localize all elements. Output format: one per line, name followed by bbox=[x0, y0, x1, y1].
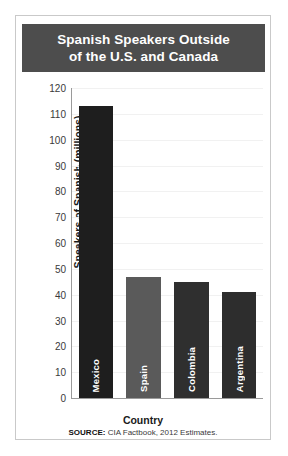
y-axis-tick-label: 20 bbox=[55, 341, 66, 352]
bar-colombia[interactable]: Colombia bbox=[174, 282, 208, 398]
bar-spain[interactable]: Spain bbox=[126, 277, 160, 398]
bar-label: Colombia bbox=[186, 347, 197, 392]
y-axis-tick-label: 120 bbox=[49, 83, 66, 94]
source-text: CIA Factbook, 2012 Estimates. bbox=[105, 428, 217, 437]
gridline bbox=[72, 88, 263, 89]
y-axis-tick-label: 50 bbox=[55, 263, 66, 274]
bar-label: Mexico bbox=[90, 359, 101, 392]
bar-label: Argentina bbox=[234, 346, 245, 392]
bar-argentina[interactable]: Argentina bbox=[222, 292, 256, 398]
y-axis-tick-label: 90 bbox=[55, 160, 66, 171]
bar-mexico[interactable]: Mexico bbox=[79, 106, 113, 398]
y-axis-tick-label: 10 bbox=[55, 367, 66, 378]
source-note: SOURCE: CIA Factbook, 2012 Estimates. bbox=[16, 428, 270, 437]
chart-title-line-2: of the U.S. and Canada bbox=[69, 48, 218, 65]
y-axis-tick-label: 40 bbox=[55, 289, 66, 300]
y-axis-tick-label: 70 bbox=[55, 212, 66, 223]
plot-region: Speakers of Spanish (millions) 010203040… bbox=[22, 74, 265, 414]
y-axis-tick-label: 80 bbox=[55, 186, 66, 197]
y-axis-tick-label: 100 bbox=[49, 134, 66, 145]
y-axis-tick-label: 30 bbox=[55, 315, 66, 326]
x-axis-title: Country bbox=[16, 414, 270, 426]
bar-label: Spain bbox=[138, 365, 149, 392]
y-axis-line bbox=[71, 88, 72, 398]
chart-card: Spanish Speakers Outside of the U.S. and… bbox=[15, 15, 271, 440]
source-label: SOURCE: bbox=[69, 428, 106, 437]
x-axis-line bbox=[71, 398, 263, 399]
plot-area: 0102030405060708090100110120 MexicoSpain… bbox=[72, 88, 263, 398]
chart-title-banner: Spanish Speakers Outside of the U.S. and… bbox=[22, 24, 265, 72]
y-axis-tick-label: 60 bbox=[55, 238, 66, 249]
y-axis-tick-label: 0 bbox=[60, 393, 66, 404]
y-axis-tick-label: 110 bbox=[50, 108, 66, 119]
chart-title-line-1: Spanish Speakers Outside bbox=[57, 31, 230, 48]
